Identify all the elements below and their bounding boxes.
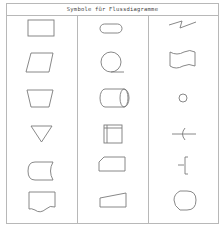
manual-operation-trapezoid-icon	[27, 90, 53, 107]
sequential-storage-circle-icon	[101, 52, 121, 72]
cylinder-end	[120, 89, 128, 107]
connector-icon	[179, 94, 187, 102]
input-output-parallelogram-icon	[26, 53, 53, 72]
terminator-icon	[100, 24, 122, 33]
annotation-bracket-icon	[185, 157, 188, 174]
punched-tape-icon	[170, 51, 195, 69]
stored-data-icon	[28, 162, 53, 180]
cylinder-icon	[100, 89, 129, 107]
symbols-canvas	[0, 0, 222, 229]
merge-triangle-icon	[31, 126, 52, 142]
manual-input-icon	[100, 193, 126, 207]
document-icon	[29, 192, 55, 212]
card-icon	[99, 157, 125, 171]
process-rectangle-icon	[28, 20, 54, 36]
communication-link-icon	[169, 21, 196, 28]
display-icon	[174, 191, 196, 210]
